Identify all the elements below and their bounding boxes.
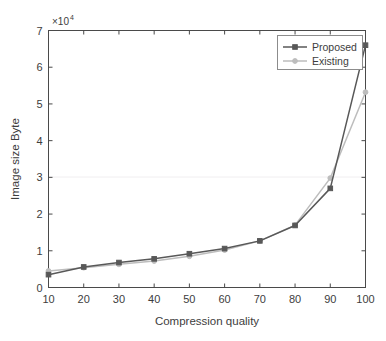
- y-axis-exponent-prefix: ×10: [52, 16, 69, 27]
- data-point-marker: [46, 272, 51, 277]
- x-tick-label: 90: [324, 293, 336, 305]
- y-tick-label: 6: [36, 61, 42, 73]
- y-tick-label: 0: [36, 282, 42, 294]
- data-point-marker: [363, 90, 368, 95]
- y-axis-exponent: ×10 4: [52, 14, 74, 27]
- x-tick-label: 40: [148, 293, 160, 305]
- line-chart: 102030405060708090100 01234567 ×10 4 Com…: [0, 0, 386, 341]
- data-point-marker: [222, 246, 227, 251]
- x-tick-label: 100: [356, 293, 374, 305]
- x-axis-tick-labels: 102030405060708090100: [42, 293, 374, 305]
- y-tick-label: 7: [36, 25, 42, 37]
- x-tick-label: 30: [113, 293, 125, 305]
- y-tick-label: 4: [36, 135, 42, 147]
- x-tick-label: 20: [78, 293, 90, 305]
- y-tick-label: 2: [36, 208, 42, 220]
- y-tick-label: 5: [36, 98, 42, 110]
- data-point-marker: [293, 223, 298, 228]
- legend-marker-swatch: [293, 45, 298, 50]
- x-tick-label: 80: [289, 293, 301, 305]
- data-point-marker: [81, 265, 86, 270]
- data-point-marker: [258, 239, 263, 244]
- legend-item-label: Existing: [312, 55, 349, 67]
- chart-figure: 102030405060708090100 01234567 ×10 4 Com…: [0, 0, 386, 341]
- data-point-marker: [152, 257, 157, 262]
- legend-marker-swatch: [293, 59, 298, 64]
- data-point-marker: [117, 260, 122, 265]
- legend-item-label: Proposed: [312, 41, 357, 53]
- y-axis-exponent-power: 4: [70, 14, 74, 21]
- data-point-marker: [363, 43, 368, 48]
- y-tick-label: 1: [36, 245, 42, 257]
- chart-legend[interactable]: ProposedExisting: [278, 36, 363, 70]
- data-point-marker: [328, 186, 333, 191]
- x-tick-label: 50: [183, 293, 195, 305]
- y-axis-title: Image size Byte: [9, 118, 21, 200]
- data-point-marker: [187, 251, 192, 256]
- x-tick-label: 10: [42, 293, 54, 305]
- x-tick-label: 60: [218, 293, 230, 305]
- y-axis-tick-labels: 01234567: [36, 25, 42, 294]
- y-tick-label: 3: [36, 171, 42, 183]
- x-axis-title: Compression quality: [155, 315, 259, 327]
- x-tick-label: 70: [254, 293, 266, 305]
